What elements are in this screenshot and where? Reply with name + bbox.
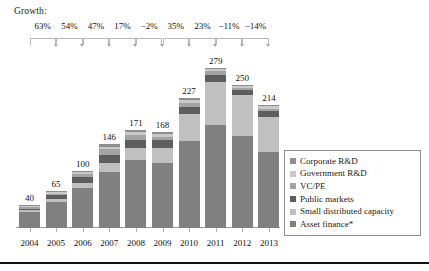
bar-segment [232, 136, 253, 228]
chart-legend: Corporate R&DGovernment R&DVC/PEPublic m… [284, 150, 421, 236]
bar-segment [205, 75, 226, 82]
x-axis-labels: 2004200520062007200820092010201120122013 [0, 238, 290, 252]
bar-2008[interactable]: 171 [125, 130, 146, 228]
growth-bracket-0 [30, 38, 57, 45]
bar-2004[interactable]: 40 [19, 205, 40, 228]
growth-bracket-4 [136, 38, 163, 45]
legend-swatch-icon [290, 158, 296, 164]
bar-segment [205, 82, 226, 125]
bar-segment [19, 212, 40, 228]
legend-swatch-icon [290, 171, 296, 177]
x-axis-label-2008: 2008 [122, 238, 149, 248]
bar-2007[interactable]: 146 [99, 144, 120, 228]
x-axis-tick [56, 228, 57, 232]
growth-title: Growth: [14, 6, 47, 16]
legend-item-3[interactable]: Public markets [290, 193, 416, 206]
x-axis-tick [269, 228, 270, 232]
x-axis-label-2007: 2007 [96, 238, 123, 248]
growth-bracket-3 [109, 38, 136, 45]
bar-segment [179, 114, 200, 140]
bar-segment [258, 152, 279, 228]
bar-value-label: 250 [236, 73, 250, 83]
x-axis-label-2006: 2006 [69, 238, 96, 248]
x-axis-tick [242, 228, 243, 232]
legend-swatch-icon [290, 196, 296, 202]
bar-segment [72, 188, 93, 228]
bar-2006[interactable]: 100 [72, 171, 93, 228]
growth-bracket-7 [216, 38, 243, 45]
plot-area: 4065100146171168227279250214 [0, 50, 290, 236]
bar-segment [152, 163, 173, 228]
bar-2011[interactable]: 279 [205, 68, 226, 228]
x-axis-label-2012: 2012 [229, 238, 256, 248]
bar-segment [152, 148, 173, 162]
x-axis-label-2013: 2013 [255, 238, 282, 248]
bar-value-label: 227 [182, 86, 196, 96]
legend-label: Small distributed capacity [300, 207, 394, 216]
growth-values-row: 63%54%47%17%−2%35%23%−11%−14% [0, 21, 290, 35]
legend-label: Public markets [300, 195, 354, 204]
legend-label: VC/PE [300, 182, 326, 191]
bar-segment [125, 160, 146, 228]
x-axis-label-2005: 2005 [43, 238, 70, 248]
legend-item-4[interactable]: Small distributed capacity [290, 205, 416, 218]
x-axis-tick [216, 228, 217, 232]
legend-swatch-icon [290, 183, 296, 189]
legend-swatch-icon [290, 221, 296, 227]
x-axis-label-2011: 2011 [202, 238, 229, 248]
x-axis-tick [189, 228, 190, 232]
growth-brackets-row [0, 36, 290, 48]
bar-value-label: 40 [25, 193, 34, 203]
legend-item-0[interactable]: Corporate R&D [290, 155, 416, 168]
bar-segment [205, 125, 226, 228]
growth-bracket-5 [163, 38, 190, 45]
legend-label: Government R&D [300, 169, 367, 178]
bar-2009[interactable]: 168 [152, 132, 173, 228]
bar-value-label: 65 [52, 179, 61, 189]
legend-swatch-icon [290, 209, 296, 215]
bar-segment [125, 148, 146, 160]
growth-bracket-8 [242, 38, 269, 45]
growth-bracket-6 [189, 38, 216, 45]
x-axis-label-2009: 2009 [149, 238, 176, 248]
x-axis-tick [83, 228, 84, 232]
bar-value-label: 214 [262, 93, 276, 103]
bar-segment [179, 141, 200, 228]
x-axis-tick [136, 228, 137, 232]
bar-value-label: 146 [103, 132, 117, 142]
growth-bracket-2 [83, 38, 110, 45]
bar-segment [152, 140, 173, 148]
legend-item-5[interactable]: Asset finance* [290, 218, 416, 231]
bar-value-label: 100 [76, 159, 90, 169]
chart-figure: Growth: 63%54%47%17%−2%35%23%−11%−14% 40… [0, 0, 429, 271]
bar-segment [99, 172, 120, 228]
x-axis-tick [109, 228, 110, 232]
legend-item-1[interactable]: Government R&D [290, 168, 416, 181]
legend-label: Corporate R&D [300, 157, 358, 166]
x-axis-tick [30, 228, 31, 232]
bar-segment [46, 202, 67, 228]
x-axis-label-2004: 2004 [16, 238, 43, 248]
bar-2013[interactable]: 214 [258, 105, 279, 228]
legend-item-2[interactable]: VC/PE [290, 180, 416, 193]
bar-segment [179, 107, 200, 114]
bar-value-label: 171 [129, 118, 143, 128]
bar-2010[interactable]: 227 [179, 98, 200, 228]
bar-segment [99, 155, 120, 163]
bar-value-label: 279 [209, 56, 223, 66]
bar-segment [258, 117, 279, 151]
bar-segment [125, 140, 146, 147]
bottom-rule [0, 262, 429, 264]
legend-label: Asset finance* [300, 220, 353, 229]
bar-segment [99, 163, 120, 172]
growth-value-8: −14% [240, 21, 272, 31]
growth-bracket-1 [56, 38, 83, 45]
x-axis-tick [163, 228, 164, 232]
x-axis-label-2010: 2010 [176, 238, 203, 248]
bar-2005[interactable]: 65 [46, 191, 67, 228]
bar-value-label: 168 [156, 120, 170, 130]
bar-segment [232, 95, 253, 136]
bar-2012[interactable]: 250 [232, 85, 253, 228]
